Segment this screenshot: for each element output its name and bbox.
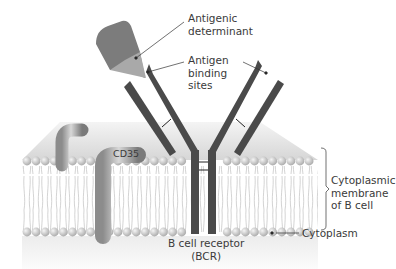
antigen-binding-sites-label: Antigen binding sites	[188, 54, 229, 92]
membrane-label: Cytoplasmic membrane of B cell	[331, 174, 396, 212]
bcr-label: B cell receptor (BCR)	[168, 237, 244, 262]
cytoplasm-label: Cytoplasm	[302, 227, 358, 240]
antigenic-determinant-label: Antigenic determinant	[188, 12, 253, 37]
antigen	[96, 21, 146, 78]
cd35-label: CD35	[113, 148, 139, 161]
